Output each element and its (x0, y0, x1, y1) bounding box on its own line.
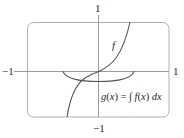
x-max-label: 1 (173, 66, 179, 77)
formula-x-3: x (157, 91, 162, 102)
x-min-label: −1 (2, 66, 14, 77)
curve-g-formula-label: g(x) = ∫ f(x) dx (101, 92, 162, 103)
formula-d: d (149, 91, 157, 102)
curve-f-label: f (112, 40, 115, 51)
formula-equals-integral: = ∫ (118, 91, 135, 102)
diagram: 1 −1 −1 1 f g(x) = ∫ f(x) dx (0, 0, 184, 138)
graph-canvas (0, 0, 184, 138)
y-max-label: 1 (95, 3, 101, 14)
y-min-label: −1 (93, 123, 105, 134)
